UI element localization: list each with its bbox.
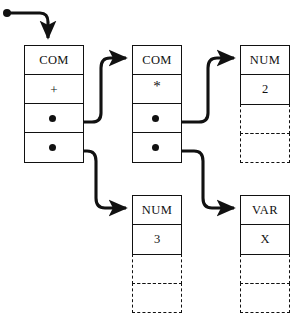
com-times-node[interactable]: COM * [132, 45, 182, 163]
var-x-node[interactable]: VAR X [240, 195, 290, 313]
num-2-node[interactable]: NUM 2 [240, 45, 290, 163]
root-pointer-dot [3, 9, 11, 17]
num-2-tag-cell: NUM [240, 45, 290, 75]
num-3-slot4-cell [132, 283, 182, 313]
var-x-tag-cell: VAR [240, 195, 290, 225]
num-2-slot3-cell [240, 104, 290, 134]
com-plus-slot3-cell[interactable] [24, 103, 84, 133]
com-plus-node[interactable]: COM + [24, 45, 84, 163]
com-plus-slot3-dot [49, 115, 56, 122]
com-times-tag-cell: COM [132, 45, 182, 75]
num-3-value-cell: 3 [132, 224, 182, 255]
var-x-value-cell: X [240, 224, 290, 255]
com-plus-slot4-dot [49, 144, 56, 151]
expression-tree-diagram: COM + COM * NUM 2 NUM 3 VAR X [0, 0, 302, 326]
com-times-operator-cell: * [132, 74, 182, 104]
com-times-slot3-dot [152, 115, 159, 122]
com-times-slot3-cell[interactable] [132, 103, 182, 133]
num-3-node[interactable]: NUM 3 [132, 195, 182, 313]
num-2-slot4-cell [240, 133, 290, 163]
var-x-slot4-cell [240, 283, 290, 313]
com-plus-tag-cell: COM [24, 45, 84, 75]
com-times-slot4-dot [152, 144, 159, 151]
num-3-tag-cell: NUM [132, 195, 182, 225]
var-x-slot3-cell [240, 254, 290, 284]
com-times-slot4-cell[interactable] [132, 132, 182, 163]
num-2-value-cell: 2 [240, 74, 290, 105]
com-plus-slot4-cell[interactable] [24, 132, 84, 163]
num-3-slot3-cell [132, 254, 182, 284]
edge-root-to-com-plus-path [7, 13, 49, 38]
com-plus-operator-cell: + [24, 74, 84, 104]
